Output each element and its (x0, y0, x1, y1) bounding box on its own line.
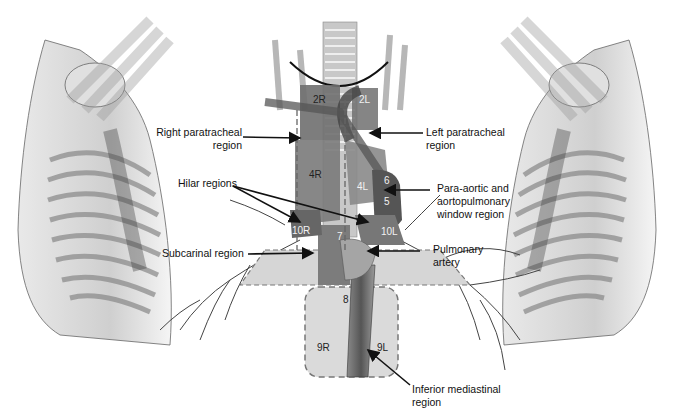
station-label-10L: 10L (381, 226, 398, 237)
label-subcarinal: Subcarinal region (162, 247, 244, 260)
station-label-8: 8 (343, 294, 349, 305)
right-torso-illustration (503, 20, 656, 345)
label-right-paratracheal: Right paratracheal region (150, 126, 242, 152)
left-torso-illustration (18, 20, 171, 345)
station-label-4L: 4L (357, 181, 368, 192)
label-para-aortic: Para-aortic and aortopulmonary window re… (437, 182, 510, 221)
anatomy-illustration (0, 0, 674, 412)
station-label-10R: 10R (292, 225, 310, 236)
station-label-2L: 2L (359, 94, 370, 105)
station-label-9R: 9R (317, 342, 330, 353)
label-left-paratracheal: Left paratracheal region (426, 126, 505, 152)
station-label-4R: 4R (309, 169, 322, 180)
label-inferior-mediastinal: Inferior mediastinal region (412, 383, 501, 409)
label-pulmonary-artery: Pulmonary artery (433, 243, 483, 269)
station-label-9L: 9L (377, 342, 388, 353)
station-label-7: 7 (337, 231, 343, 242)
label-hilar: Hilar regions (178, 177, 237, 190)
station-label-2R: 2R (313, 94, 326, 105)
station-label-6: 6 (384, 175, 390, 186)
station-label-5: 5 (384, 196, 390, 207)
